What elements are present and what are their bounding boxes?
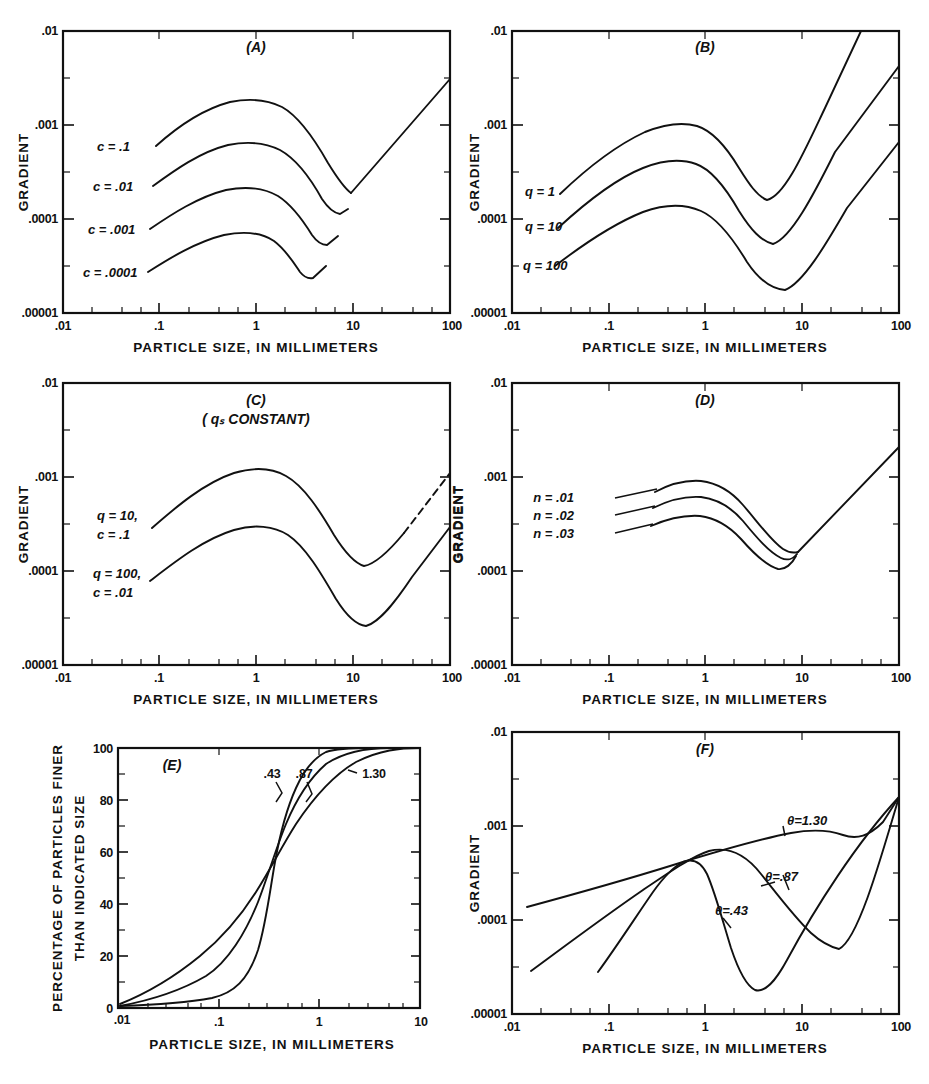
x-tick-label-f-2: 1 (702, 1020, 709, 1034)
y-tick-label-c-1: .001 (35, 470, 58, 484)
x-axis-title-f: PARTICLE SIZE, IN MILLIMETERS (582, 1041, 828, 1056)
y-tick-label-e-5: 100 (93, 742, 113, 756)
x-axis-title-a: PARTICLE SIZE, IN MILLIMETERS (133, 340, 379, 355)
panel-id-a: (A) (246, 39, 266, 55)
panel-id-d: (D) (695, 392, 715, 408)
leader-line-d-0 (615, 489, 657, 498)
curve-e-0.87 (120, 748, 390, 1006)
x-tick-label-f-0: .01 (504, 1020, 521, 1034)
curve-label-d-0: n = .01 (533, 490, 574, 505)
y-tick-label-f-1: .001 (484, 819, 507, 833)
curve-label-a-0: c = .1 (97, 139, 130, 154)
y-tick-label-c-2: .0001 (28, 564, 58, 578)
y-tick-label-b-2: .0001 (477, 212, 507, 226)
x-tick-label-b-2: 1 (702, 319, 709, 333)
x-tick-label-e-3: 10 (414, 1015, 428, 1029)
curve-label-d-1: n = .02 (533, 508, 575, 523)
leader-line-e-0 (276, 782, 282, 802)
x-axis-ticks-e (118, 748, 420, 1008)
y-axis-ticks-f (512, 732, 523, 1014)
curve-label-f-0: θ=1.30 (787, 813, 828, 828)
curve-label-b-2: q = 100 (523, 258, 568, 273)
curve-a-c-0.1 (156, 100, 351, 193)
y-axis-ticks-c (63, 383, 74, 665)
y-axis-right-ticks-e (411, 774, 420, 982)
curve-label-c-0-line1: q = 10, (97, 508, 138, 523)
figure-six-panel-gradient-plots: .01 .001 .0001 .00001 .01 .1 1 10 100 PA… (0, 0, 929, 1084)
y-tick-label-d-1: .001 (484, 470, 507, 484)
y-axis-ticks-d (512, 383, 523, 665)
curve-label-a-2: c = .001 (88, 222, 135, 237)
curve-label-d-2: n = .03 (533, 526, 575, 541)
y-axis-right-ticks-a (440, 78, 450, 266)
x-tick-label-d-3: 10 (795, 671, 809, 685)
x-tick-label-a-2: 1 (253, 319, 260, 333)
y-axis-right-ticks-b (889, 78, 899, 266)
y-axis-title-b: GRADIENT (467, 133, 482, 212)
curve-c-q10-c0.1-extrapolated (404, 473, 450, 533)
y-axis-title-e-line1: PERCENTAGE OF PARTICLES FINER (50, 744, 65, 1012)
y-axis-ticks-a (63, 31, 74, 313)
leader-line-d-2 (615, 524, 653, 533)
curve-a-c-0.0001 (148, 233, 326, 278)
x-tick-label-c-4: 100 (442, 671, 462, 685)
x-tick-label-a-0: .01 (55, 319, 72, 333)
panel-id-f: (F) (696, 741, 714, 757)
curve-label-f-2: θ=.43 (715, 903, 749, 918)
x-tick-label-a-3: 10 (346, 319, 360, 333)
x-tick-label-f-4: 100 (891, 1020, 911, 1034)
panel-id-b: (B) (695, 39, 715, 55)
curve-b-q-100 (555, 142, 899, 290)
curve-label-e-1: .87 (296, 767, 313, 781)
y-axis-right-ticks-d (889, 430, 899, 618)
y-axis-title-e-line2: THAN INDICATED SIZE (72, 795, 87, 962)
curve-d-n-0.02 (653, 497, 797, 560)
y-tick-label-d-0: .01 (491, 376, 508, 390)
y-tick-label-d-3: .00001 (471, 658, 508, 672)
y-tick-label-e-0: 0 (106, 1002, 113, 1016)
curve-label-e-0: .43 (264, 767, 281, 781)
y-tick-label-c-3: .00001 (22, 658, 59, 672)
curve-f-theta-0.87 (531, 797, 899, 971)
y-tick-label-b-0: .01 (491, 24, 508, 38)
x-tick-label-a-4: 100 (442, 319, 462, 333)
y-tick-label-b-1: .001 (484, 118, 507, 132)
curve-label-e-2: 1.30 (362, 767, 386, 781)
curve-e-1.30 (120, 748, 420, 1004)
curve-c-q100-c0.01 (150, 527, 450, 626)
panel-id-e: (E) (163, 757, 182, 773)
curve-d-asymptote (798, 447, 899, 552)
y-tick-label-b-3: .00001 (471, 306, 508, 320)
curve-a-c-0.01 (153, 143, 348, 214)
x-tick-label-f-3: 10 (795, 1020, 809, 1034)
curve-label-c-1-line2: c = .01 (93, 585, 133, 600)
curve-d-n-0.01 (655, 481, 798, 553)
y-tick-label-e-4: 80 (100, 794, 114, 808)
curve-f-theta-0.43 (598, 797, 899, 990)
curve-label-a-1: c = .01 (93, 179, 133, 194)
curve-label-a-3: c = .0001 (83, 265, 138, 280)
panel-id-c: (C) (246, 392, 266, 408)
x-axis-title-b: PARTICLE SIZE, IN MILLIMETERS (582, 340, 828, 355)
curve-e-0.43 (120, 748, 370, 1006)
panel-c: .01 .001 .0001 .00001 .01 .1 1 10 100 PA… (0, 355, 465, 715)
leader-line-d-1 (615, 506, 655, 515)
leader-line-e-2 (348, 770, 357, 773)
x-tick-label-c-3: 10 (346, 671, 360, 685)
curve-b-q-1 (560, 31, 861, 200)
x-tick-label-b-0: .01 (504, 319, 521, 333)
curve-b-q-10 (558, 66, 899, 244)
y-axis-title-c: GRADIENT (16, 485, 31, 564)
y-tick-label-a-2: .0001 (28, 212, 58, 226)
panel-f: .01 .001 .0001 .00001 .01 .1 1 10 100 PA… (465, 710, 929, 1084)
y-tick-label-a-3: .00001 (22, 306, 59, 320)
x-tick-label-d-0: .01 (504, 671, 521, 685)
x-tick-label-d-4: 100 (891, 671, 911, 685)
x-axis-title-c: PARTICLE SIZE, IN MILLIMETERS (133, 692, 379, 707)
x-tick-label-b-4: 100 (891, 319, 911, 333)
y-tick-label-c-0: .01 (42, 376, 59, 390)
x-axis-title-d: PARTICLE SIZE, IN MILLIMETERS (582, 692, 828, 707)
x-tick-label-b-1: .1 (604, 319, 614, 333)
y-tick-label-a-0: .01 (42, 24, 59, 38)
x-tick-label-c-0: .01 (55, 671, 72, 685)
